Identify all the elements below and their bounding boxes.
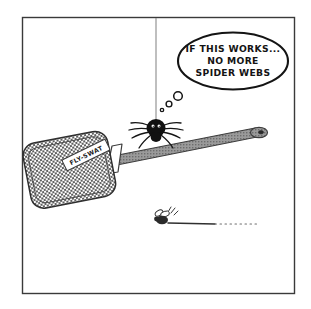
cartoon-illustration: FLY-SWAT bbox=[0, 0, 311, 309]
thought-bubble-line-1: IF THIS WORKS... bbox=[186, 43, 281, 54]
spider-pupil bbox=[153, 126, 154, 127]
flyswatter-hang-hole bbox=[258, 131, 263, 134]
cartoon-panel: FLY-SWAT bbox=[0, 0, 311, 309]
fly-head bbox=[154, 217, 159, 222]
fly-trail-solid bbox=[168, 223, 215, 224]
thought-bubble-line-2: NO MORE bbox=[207, 55, 258, 66]
spider-abdomen bbox=[151, 132, 162, 142]
spider-pupil bbox=[159, 126, 160, 127]
thought-bubble-line-3: SPIDER WEBS bbox=[196, 67, 271, 78]
thought-bubble: IF THIS WORKS... NO MORE SPIDER WEBS bbox=[178, 33, 288, 90]
